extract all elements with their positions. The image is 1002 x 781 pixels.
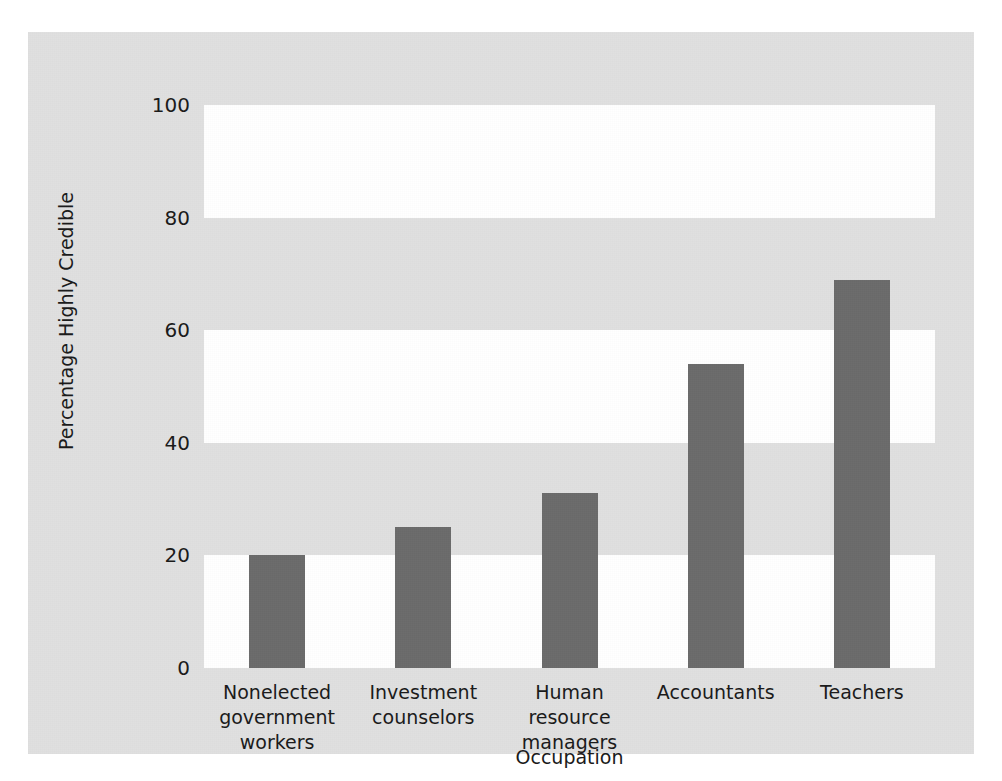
x-axis-tick-label-line: Nonelected: [204, 680, 350, 705]
x-axis-tick-label-line: Investment: [350, 680, 496, 705]
x-axis-tick-label: Accountants: [643, 680, 789, 705]
x-axis-tick-labels: Nonelectedgovernment workersInvestmentco…: [204, 680, 935, 742]
figure-panel: 020406080100 Percentage Highly Credible …: [28, 32, 974, 754]
x-axis-title: Occupation: [204, 746, 935, 768]
y-axis-tick-label: 100: [130, 95, 190, 115]
y-axis-tick-label: 80: [130, 208, 190, 228]
bar: [249, 555, 305, 668]
bar: [688, 364, 744, 668]
x-axis-tick-label: Nonelectedgovernment workers: [204, 680, 350, 755]
x-axis-tick-label-line: Accountants: [643, 680, 789, 705]
bar-series: [204, 105, 935, 668]
y-axis-tick-label: 40: [130, 433, 190, 453]
chart-figure: 020406080100 Percentage Highly Credible …: [0, 0, 1002, 781]
bar: [542, 493, 598, 668]
x-axis-tick-label: Human resourcemanagers: [496, 680, 642, 755]
y-axis-tick-label: 60: [130, 320, 190, 340]
bar: [834, 280, 890, 668]
x-axis-tick-label-line: counselors: [350, 705, 496, 730]
y-axis-tick-label: 0: [130, 658, 190, 678]
x-axis-tick-label: Teachers: [789, 680, 935, 705]
bar: [395, 527, 451, 668]
y-axis-tick-label: 20: [130, 545, 190, 565]
y-axis-title: Percentage Highly Credible: [55, 111, 77, 531]
y-axis-tick-labels: 020406080100: [128, 105, 190, 668]
x-axis-tick-label-line: Teachers: [789, 680, 935, 705]
x-axis-tick-label-line: Human resource: [496, 680, 642, 730]
plot-area: [204, 105, 935, 668]
x-axis-tick-label: Investmentcounselors: [350, 680, 496, 730]
